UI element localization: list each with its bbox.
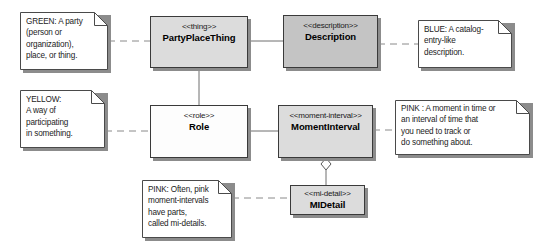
note-line: entry-like [424,35,506,46]
class-name-label: PartyPlaceThing [151,32,247,44]
stereotype-label: <<mi-detail>> [291,189,364,199]
note-blue[interactable]: BLUE: A catalog- entry-like description. [418,20,512,68]
aggregation-diamond-icon [321,158,331,170]
note-line: you need to track or [401,126,524,137]
note-line: YELLOW: [26,94,99,105]
class-name-label: Description [284,31,377,43]
note-line: A way of [26,105,99,116]
stereotype-label: <<moment-interval>> [279,111,372,121]
note-text: PINK : A moment in time or an interval o… [395,100,530,155]
class-name-label: Role [151,121,247,133]
stereotype-label: <<role>> [151,111,247,121]
note-line: have parts, [148,207,226,218]
note-line: organization), [26,39,102,50]
note-line: PINK: Often, pink [148,184,226,195]
note-text: YELLOW: A way of participating in someth… [20,90,105,148]
uml-diagram-canvas: <<thing>> PartyPlaceThing <<description>… [0,0,542,250]
stereotype-label: <<description>> [284,21,377,31]
note-text: PINK: Often, pink moment-intervals have … [142,180,232,238]
note-yellow[interactable]: YELLOW: A way of participating in someth… [20,90,105,148]
note-line: in something. [26,128,99,139]
uml-class-description[interactable]: <<description>> Description [283,15,378,68]
stereotype-label: <<thing>> [151,22,247,32]
uml-class-party-place-thing[interactable]: <<thing>> PartyPlaceThing [150,16,248,68]
note-line: participating [26,117,99,128]
class-name-label: MIDetail [291,199,364,211]
note-line: PINK : A moment in time or [401,103,524,114]
note-line: GREEN: A party [26,16,102,27]
note-line: BLUE: A catalog- [424,24,506,35]
class-name-label: MomentInterval [279,121,372,133]
note-text: GREEN: A party (person or organization),… [20,12,108,70]
note-green[interactable]: GREEN: A party (person or organization),… [20,12,108,70]
note-line: description. [424,47,506,58]
note-line: do something about. [401,137,524,148]
uml-class-role[interactable]: <<role>> Role [150,105,248,158]
note-line: place, or thing. [26,50,102,61]
note-line: moment-intervals [148,195,226,206]
uml-class-moment-interval[interactable]: <<moment-interval>> MomentInterval [278,105,373,158]
note-pink-right[interactable]: PINK : A moment in time or an interval o… [395,100,530,155]
note-line: (person or [26,27,102,38]
note-text: BLUE: A catalog- entry-like description. [418,20,512,68]
note-line: called mi-details. [148,218,226,229]
note-line: an interval of time that [401,114,524,125]
note-pink-bottom[interactable]: PINK: Often, pink moment-intervals have … [142,180,232,238]
uml-class-mi-detail[interactable]: <<mi-detail>> MIDetail [290,185,365,215]
